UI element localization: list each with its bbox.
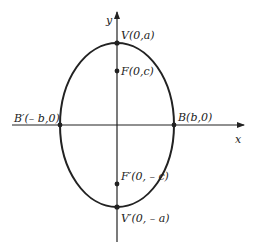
focus-top-point: [115, 69, 120, 74]
focus-bottom-label: F′(0, – c): [120, 170, 169, 183]
vertex-bottom-point: [114, 204, 119, 209]
vertex-top-point: [114, 40, 119, 45]
ellipse-diagram: y x V(0,a) F(0,c) B′(– b,0) B(b,0) F′(0,…: [0, 0, 256, 248]
focus-bottom-point: [115, 182, 120, 187]
covertex-right-label: B(b,0): [177, 111, 212, 124]
y-axis-label: y: [105, 14, 113, 27]
x-axis-label: x: [235, 133, 242, 146]
covertex-left-label: B′(– b,0): [13, 112, 60, 125]
vertex-top-label: V(0,a): [121, 29, 155, 42]
focus-top-label: F(0,c): [120, 65, 154, 78]
vertex-bottom-label: V′(0, – a): [121, 212, 170, 225]
covertex-right-point: [172, 123, 177, 128]
